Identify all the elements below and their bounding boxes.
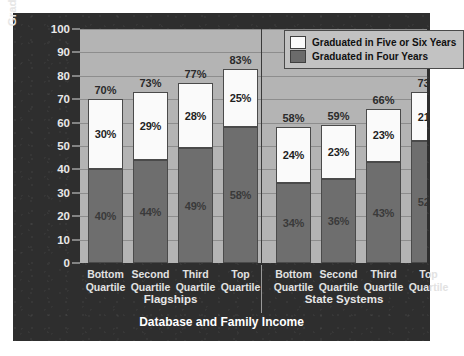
y-axis-tick-label: 20 xyxy=(57,210,70,222)
bar-segment-label-five-or-six-years: 23% xyxy=(322,146,355,158)
bar-total-label: 66% xyxy=(366,94,401,106)
y-axis-tick-mark xyxy=(72,75,80,76)
bar-total-label: 73% xyxy=(133,77,168,89)
group-divider-bottom xyxy=(261,265,262,313)
y-axis-tick-label: 60 xyxy=(57,117,70,129)
x-axis-tick-label: TopQuartile xyxy=(215,268,266,293)
bar-total-label: 77% xyxy=(178,68,213,80)
bar-segment-four-years: 43% xyxy=(366,162,401,263)
bar-segment-label-five-or-six-years-block: 29% xyxy=(133,92,168,160)
bar-segment-label-five-or-six-years: 29% xyxy=(134,120,167,132)
y-axis-tick-mark xyxy=(72,99,80,100)
bar-total-label: 73% xyxy=(411,77,427,89)
bar-segment-four-years: 52% xyxy=(411,141,427,263)
legend: Graduated in Five or Six Years Graduated… xyxy=(284,30,464,69)
x-axis-tick-label: ThirdQuartile xyxy=(358,268,409,293)
legend-item-four-years: Graduated in Four Years xyxy=(290,50,456,63)
stacked-bar: 34%24% xyxy=(276,127,311,263)
group-label: State Systems xyxy=(261,293,427,305)
y-axis-tick-label: 90 xyxy=(57,46,70,58)
x-axis-tick-label-line2: Quartile xyxy=(268,281,319,294)
x-axis-tick-label: BottomQuartile xyxy=(80,268,131,293)
x-axis-tick-label-line1: Second xyxy=(313,268,364,281)
y-axis-tick-label: 50 xyxy=(57,140,70,152)
y-axis-tick-label: 70 xyxy=(57,93,70,105)
chart-canvas: Graduation Rate (Percent) 10090807060504… xyxy=(13,13,430,341)
bar-total-label: 70% xyxy=(88,84,123,96)
x-axis-tick-label: TopQuartile xyxy=(403,268,454,293)
bar-total-label: 58% xyxy=(276,112,311,124)
x-axis-tick-label-line1: Bottom xyxy=(80,268,131,281)
bar-total-label: 59% xyxy=(321,110,356,122)
legend-swatch-five-or-six-years-icon xyxy=(290,36,306,49)
y-axis-tick-mark xyxy=(72,29,80,30)
bar-segment-four-years: 44% xyxy=(133,160,168,263)
y-axis-tick-label: 0 xyxy=(64,257,70,269)
bar-segment-label-four-years: 36% xyxy=(322,215,355,227)
x-axis-tick-label: SecondQuartile xyxy=(125,268,176,293)
legend-swatch-four-years-icon xyxy=(290,50,306,63)
x-axis-tick-label: SecondQuartile xyxy=(313,268,364,293)
y-axis-tick-mark xyxy=(72,239,80,240)
x-axis-tick-label-line1: Second xyxy=(125,268,176,281)
bar-segment-label-five-or-six-years: 23% xyxy=(367,129,400,141)
y-axis-tick-label: 80 xyxy=(57,70,70,82)
x-axis-title: Database and Family Income xyxy=(13,315,430,329)
group-label: Flagships xyxy=(80,293,261,305)
x-axis-tick-label-line2: Quartile xyxy=(80,281,131,294)
x-axis-tick-label-line2: Quartile xyxy=(170,281,221,294)
y-axis-tick-label: 100 xyxy=(51,23,70,35)
bar-segment-label-five-or-six-years: 30% xyxy=(89,128,122,140)
stacked-bar: 52%21% xyxy=(411,92,427,263)
bar-segment-label-four-years: 44% xyxy=(134,206,167,218)
bar-segment-label-five-or-six-years: 28% xyxy=(179,110,212,122)
y-axis-tick-mark xyxy=(72,122,80,123)
stacked-bar: 36%23% xyxy=(321,125,356,263)
y-axis-tick-mark xyxy=(72,146,80,147)
y-axis-tick-label: 30 xyxy=(57,187,70,199)
y-axis-tick-mark xyxy=(72,216,80,217)
x-axis-tick-label: BottomQuartile xyxy=(268,268,319,293)
bar-segment-four-years: 34% xyxy=(276,183,311,263)
x-axis-tick-label-line2: Quartile xyxy=(215,281,266,294)
bar-segment-label-five-or-six-years-block: 23% xyxy=(366,109,401,163)
y-axis-title: Graduation Rate (Percent) xyxy=(6,0,18,55)
x-axis-tick-label-line2: Quartile xyxy=(358,281,409,294)
bar-segment-four-years: 58% xyxy=(223,127,258,263)
bar-total-label: 83% xyxy=(223,54,258,66)
stacked-bar: 40%30% xyxy=(88,99,123,263)
bar-segment-label-five-or-six-years: 24% xyxy=(277,149,310,161)
bar-segment-label-five-or-six-years-block: 21% xyxy=(411,92,427,141)
bar-segment-label-five-or-six-years: 25% xyxy=(224,92,257,104)
y-axis-tick-mark xyxy=(72,169,80,170)
bar-segment-label-four-years: 34% xyxy=(277,217,310,229)
x-axis-tick-label: ThirdQuartile xyxy=(170,268,221,293)
x-axis-tick-label-line1: Top xyxy=(403,268,454,281)
legend-item-five-or-six-years: Graduated in Five or Six Years xyxy=(290,36,456,49)
bar-segment-label-five-or-six-years-block: 24% xyxy=(276,127,311,183)
stacked-bar: 58%25% xyxy=(223,69,258,263)
bar-segment-four-years: 49% xyxy=(178,148,213,263)
bar-segment-label-four-years: 52% xyxy=(412,196,427,208)
legend-label-five-or-six-years: Graduated in Five or Six Years xyxy=(312,37,456,48)
x-axis-tick-label-line2: Quartile xyxy=(403,281,454,294)
y-axis-tick-label: 40 xyxy=(57,163,70,175)
bar-segment-label-five-or-six-years-block: 28% xyxy=(178,83,213,149)
bar-segment-label-four-years: 40% xyxy=(89,210,122,222)
bar-segment-label-five-or-six-years: 21% xyxy=(412,111,427,123)
x-axis-tick-label-line1: Third xyxy=(170,268,221,281)
bar-segment-label-five-or-six-years-block: 23% xyxy=(321,125,356,179)
bar-segment-label-four-years: 58% xyxy=(224,189,257,201)
stacked-bar: 43%23% xyxy=(366,109,401,263)
bar-segment-label-four-years: 43% xyxy=(367,207,400,219)
bar-segment-label-four-years: 49% xyxy=(179,200,212,212)
y-axis-tick-label: 10 xyxy=(57,234,70,246)
y-axis-tick-mark xyxy=(72,52,80,53)
bar-segment-label-five-or-six-years-block: 30% xyxy=(88,99,123,169)
bar-segment-label-five-or-six-years-block: 25% xyxy=(223,69,258,128)
x-axis-tick-label-line2: Quartile xyxy=(125,281,176,294)
stacked-bar: 44%29% xyxy=(133,92,168,263)
group-divider xyxy=(261,29,262,263)
bar-segment-four-years: 40% xyxy=(88,169,123,263)
